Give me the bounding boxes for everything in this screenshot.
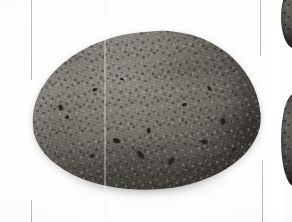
- potato-eye: [231, 145, 239, 154]
- potato-eye: [112, 137, 122, 145]
- potato-eye: [220, 116, 227, 126]
- potato-eye: [119, 77, 125, 82]
- image-canvas: [0, 0, 292, 222]
- guide-bottom-right: [262, 160, 263, 222]
- vertical-scan-seam-icon: [104, 0, 106, 222]
- potato-eye: [134, 149, 146, 162]
- potato-eye: [65, 114, 71, 120]
- potato-eye: [58, 103, 64, 110]
- potato-eye: [181, 102, 188, 107]
- guide-bottom-left: [31, 200, 32, 222]
- potato-eye: [167, 155, 178, 167]
- guide-top-left: [31, 0, 32, 80]
- potato-eye: [146, 127, 151, 134]
- guide-top-right: [260, 0, 261, 56]
- potato-eye: [200, 138, 210, 147]
- potato-eye: [89, 154, 96, 159]
- potato-eye: [206, 85, 213, 92]
- potato-subject: [30, 30, 260, 192]
- right-gutter: [262, 0, 284, 222]
- potato-eye: [92, 87, 99, 93]
